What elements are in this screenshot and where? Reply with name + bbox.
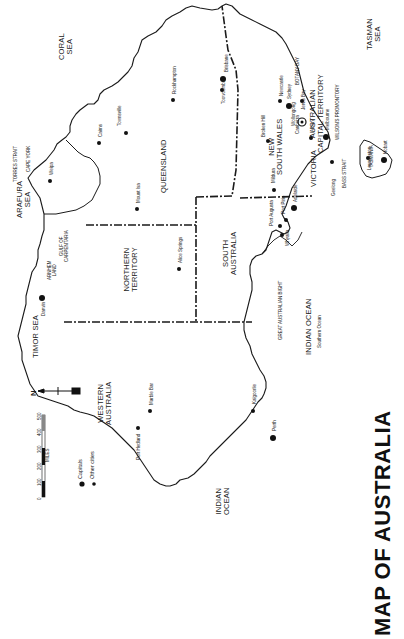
city-canberra: Canberra <box>296 115 301 134</box>
great-australian-bight-label: GREAT AUSTRALIAN BIGHT <box>279 281 284 340</box>
city-melbourne: Melbourne <box>326 109 331 130</box>
other-cities-legend-dot <box>92 482 96 486</box>
city-darwin: Darwin <box>42 302 47 316</box>
capitals-legend-dot <box>79 481 84 486</box>
map-title: MAP OF AUSTRALIA <box>370 410 396 636</box>
scale-unit: MILES <box>46 448 51 462</box>
city-adelaide: Adelaide <box>294 184 299 202</box>
scale-tick: 0 <box>38 497 43 500</box>
city-toowoomba: Toowoomba <box>222 80 227 104</box>
wilsons-promontory-label: WILSON'S PROMONTORY <box>336 85 341 140</box>
city-brisbane: Brisbane <box>225 54 230 72</box>
city-sydney: Sydney <box>288 84 293 99</box>
city-geelong: Geelong <box>332 179 337 196</box>
torres-strait-label: TORRES STRAIT <box>14 146 19 182</box>
victoria-label: VICTORIA <box>310 150 318 187</box>
northern-territory-label: NORTHERNTERRITORY <box>123 247 138 292</box>
scale-tick: 200 <box>38 462 43 470</box>
jervis-bay-label: Jervis Bay <box>302 89 307 110</box>
act-label: AUSTRALIANCAPITAL TERRITORY <box>309 74 324 153</box>
western-australia-label: WESTERNAUSTRALIA <box>97 382 112 425</box>
north-arrow <box>38 387 80 395</box>
scale-tick: 500 <box>38 412 43 420</box>
city-marble-bar: Marble Bar <box>150 383 155 405</box>
city-cairns: Cairns <box>99 124 104 137</box>
city-port-augusta: Port Augusta <box>270 200 275 226</box>
scale-tick: 400 <box>38 428 43 436</box>
city-perth: Perth <box>273 420 278 431</box>
city-broken-hill: Broken Hill <box>262 115 267 137</box>
scale-tick: 300 <box>38 445 43 453</box>
city-albury: Albury <box>311 119 316 132</box>
scale-tick: 100 <box>38 478 43 486</box>
city-wollongong: Wollongong <box>292 102 297 126</box>
city-port-pirie: Port Pirie <box>282 195 287 214</box>
gulf-coast <box>44 140 100 214</box>
australia-map <box>0 0 404 639</box>
south-australia-label: SOUTHAUSTRALIA <box>222 232 237 275</box>
indian-ocean-west-label: INDIANOCEAN <box>215 487 230 515</box>
city-kalgoorlie: Kalgoorlie <box>253 384 258 404</box>
botany-bay-label: BOTANY BAY <box>296 57 301 85</box>
bass-strait-label: BASS STRAIT <box>343 159 348 188</box>
city-weipa: Weipa <box>50 162 55 175</box>
city-hobart: Hobart <box>384 140 389 154</box>
sa-nsw-vic-border <box>240 196 312 198</box>
cape-york-label: CAPE YORK <box>27 146 32 172</box>
north-label: N <box>30 390 38 396</box>
city-rockhampton: Rockhampton <box>173 66 178 94</box>
city-mildura: Mildura <box>272 168 277 183</box>
other-cities-legend-label: Other cities <box>90 451 96 479</box>
city-port-hedland: Port Hedland <box>137 434 142 460</box>
coral-sea-label: CORALSEA <box>58 33 73 60</box>
arafura-sea-label: ARAFURASEA <box>16 181 31 218</box>
new-south-wales-label: NEWSOUTH WALES <box>268 118 283 175</box>
city-whyalla: Whyalla <box>286 230 291 246</box>
city-alice-springs: Alice Springs <box>179 237 184 263</box>
queensland-label: QUEENSLAND <box>160 139 168 193</box>
city-newcastle: Newcastle <box>280 75 285 96</box>
capitals-legend-label: Capitals <box>78 459 84 479</box>
city-mount-isa: Mount Isa <box>137 183 142 203</box>
indian-ocean-south-label: INDIAN OCEAN <box>305 298 313 355</box>
timor-sea-label: TIMOR SEA <box>32 315 40 358</box>
city-launceston: Launceston <box>368 147 373 170</box>
tasman-sea-label: TASMANSEA <box>366 18 381 50</box>
city-townsville: Townsville <box>118 105 123 126</box>
southern-ocean-label: Southern Ocean <box>318 315 323 348</box>
arnhem-land-label: ARNHEMLAND <box>48 260 57 280</box>
gulf-of-carpentaria-label: GULF OFCARPENTARIA <box>60 230 69 262</box>
qld-nsw-border <box>196 6 238 197</box>
